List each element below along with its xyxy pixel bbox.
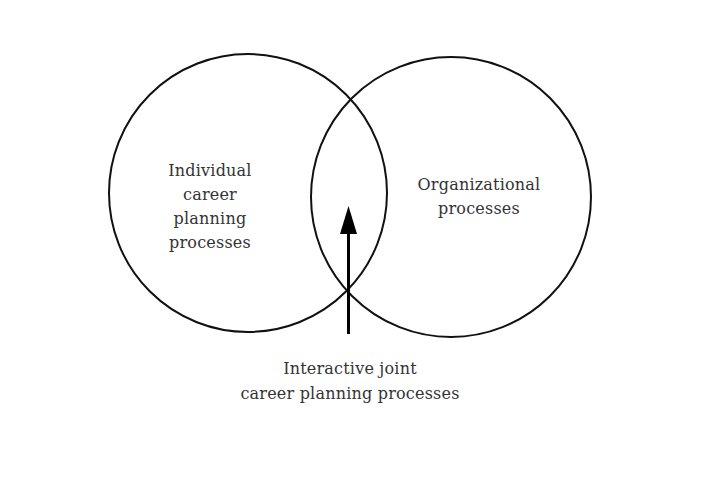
label-line: career planning processes (200, 381, 500, 406)
organizational-processes-label: Organizational processes (405, 173, 553, 221)
venn-diagram (0, 0, 711, 502)
label-line: Organizational (405, 173, 553, 197)
individual-career-planning-label: Individual career planning processes (145, 159, 275, 255)
label-line: career (145, 183, 275, 207)
label-line: processes (145, 231, 275, 255)
label-line: processes (405, 197, 553, 221)
up-arrow-icon (340, 206, 357, 334)
label-line: Interactive joint (200, 356, 500, 381)
interactive-joint-processes-label: Interactive joint career planning proces… (200, 356, 500, 406)
label-line: planning (145, 207, 275, 231)
label-line: Individual (145, 159, 275, 183)
